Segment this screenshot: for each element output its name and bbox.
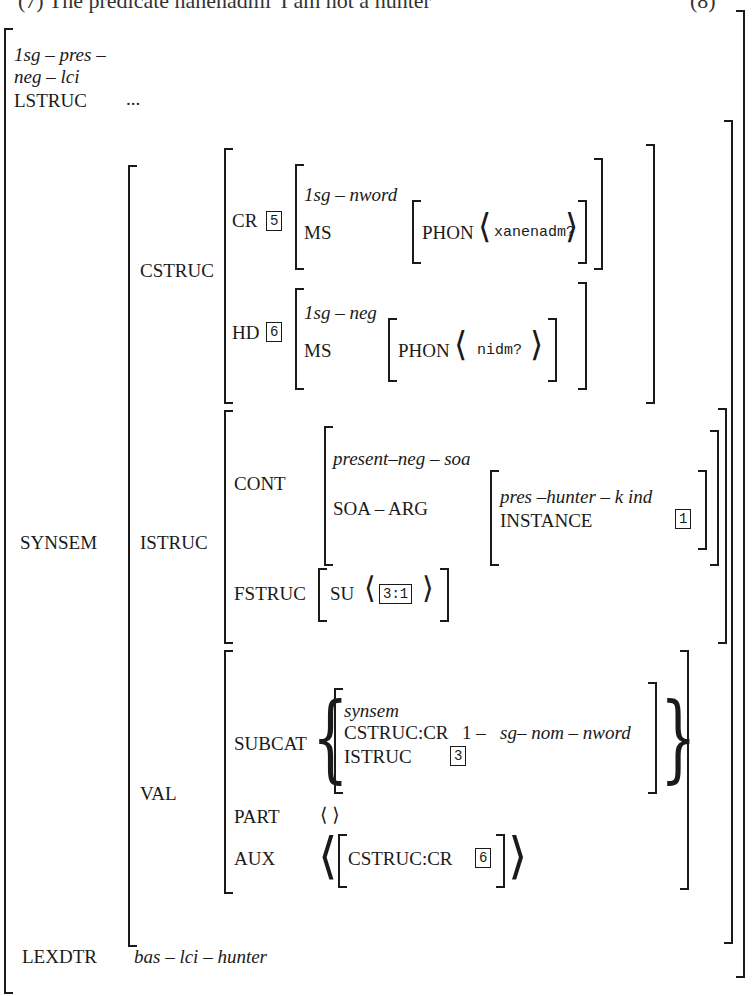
cr-label: CR	[232, 210, 257, 232]
hd-phon-close-angle: ⟩	[530, 324, 543, 364]
cont-type: present–neg – soa	[333, 448, 471, 470]
cr-ms-left-bracket	[412, 200, 421, 264]
fstruc-label: FSTRUC	[234, 583, 306, 605]
lexdtr-value: bas – lci – hunter	[134, 946, 267, 968]
subcat-cstruc-cr-prefix: 1 –	[462, 722, 486, 744]
synsem-label: SYNSEM	[20, 532, 97, 554]
avm-type-line2: neg – lci	[14, 66, 79, 88]
cr-type: 1sg – nword	[304, 184, 397, 206]
synsem-left-bracket	[128, 165, 137, 947]
cont-left-bracket	[324, 426, 333, 566]
hd-ms-left-bracket	[388, 318, 397, 382]
subcat-close-brace: }	[660, 682, 697, 792]
aux-cstruc-cr-label: CSTRUC:CR	[348, 848, 453, 870]
fstruc-left-bracket	[318, 568, 327, 622]
aux-tag: 6	[475, 848, 491, 868]
cstruc-right-bracket	[646, 144, 655, 404]
aux-open-angle: ⟨	[318, 826, 338, 886]
cr-phon-label: PHON	[422, 222, 474, 244]
val-left-bracket	[224, 650, 233, 894]
cstruc-left-bracket	[224, 148, 233, 404]
hd-left-bracket	[295, 288, 304, 390]
soa-arg-type: pres –hunter – k ind	[500, 486, 652, 508]
cr-left-bracket	[295, 164, 304, 270]
subcat-label: SUBCAT	[234, 733, 307, 755]
cr-ms-label: MS	[304, 222, 331, 244]
lstruc-value: ...	[126, 88, 140, 110]
hd-tag: 6	[266, 322, 282, 342]
soa-arg-label: SOA – ARG	[333, 498, 428, 520]
istruc-right-bracket	[718, 408, 727, 644]
cr-right-bracket	[594, 158, 603, 270]
part-label: PART	[234, 806, 280, 828]
subcat-istruc-tag: 3	[450, 746, 466, 766]
part-value: ⟨ ⟩	[320, 804, 340, 826]
hd-right-bracket	[578, 282, 587, 390]
subcat-inner-right-bracket	[648, 682, 657, 794]
hd-label: HD	[232, 322, 259, 344]
fstruc-right-bracket	[440, 568, 449, 622]
avm-type-line1: 1sg – pres –	[14, 44, 106, 66]
cr-phon-value: xanenadm?	[494, 222, 575, 244]
subcat-cstruc-cr-value: sg– nom – nword	[500, 722, 631, 744]
aux-label: AUX	[234, 848, 275, 870]
su-open-angle: ⟨	[364, 570, 376, 605]
aux-inner-left-bracket	[338, 834, 347, 888]
istruc-label: ISTRUC	[140, 532, 208, 554]
cr-tag: 5	[266, 211, 282, 231]
cr-phon-open-angle: ⟨	[478, 206, 491, 246]
su-label: SU	[330, 583, 354, 605]
su-close-angle: ⟩	[422, 570, 434, 605]
istruc-left-bracket	[224, 410, 233, 644]
subcat-type: synsem	[344, 700, 399, 722]
hd-type: 1sg – neg	[304, 302, 377, 324]
hd-phon-value: nidm?	[477, 340, 522, 362]
subcat-cstruc-cr-label: CSTRUC:CR	[344, 722, 449, 744]
hd-ms-right-bracket	[548, 318, 557, 382]
soa-arg-left-bracket	[490, 470, 499, 566]
soa-arg-right-bracket	[698, 470, 707, 550]
instance-tag: 1	[675, 509, 691, 529]
cr-phon-close-angle: ⟩	[565, 206, 578, 246]
figure-number: (8)	[690, 0, 716, 12]
hd-phon-label: PHON	[398, 340, 450, 362]
hd-phon-open-angle: ⟨	[454, 324, 467, 364]
subcat-istruc-label: ISTRUC	[344, 746, 412, 768]
lexdtr-label: LEXDTR	[22, 946, 97, 968]
cont-right-bracket	[710, 430, 719, 566]
aux-close-angle: ⟩	[508, 826, 528, 886]
figure-caption: (7) The predicate nanenadmi 'I am not a …	[18, 0, 435, 14]
val-label: VAL	[140, 783, 177, 805]
cont-label: CONT	[234, 473, 286, 495]
aux-inner-right-bracket	[496, 834, 505, 888]
subcat-inner-left-bracket	[334, 688, 343, 794]
su-tag: 3:1	[379, 584, 412, 604]
outer-right-bracket	[736, 10, 745, 978]
cr-ms-right-bracket	[578, 200, 587, 264]
hd-ms-label: MS	[304, 340, 331, 362]
instance-label: INSTANCE	[500, 510, 592, 532]
lstruc-label: LSTRUC	[14, 90, 87, 112]
cstruc-label: CSTRUC	[140, 260, 214, 282]
outer-left-bracket	[4, 28, 13, 994]
